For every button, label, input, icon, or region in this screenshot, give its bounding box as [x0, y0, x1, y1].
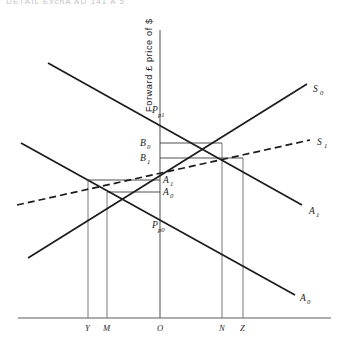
curve-label-S0-main: S: [313, 84, 318, 94]
price-label-B1-main: B: [140, 153, 146, 163]
price-label-A0-main: A: [162, 187, 169, 197]
price-label-Pp1: P p1: [151, 105, 165, 118]
curve-label-S0-sub: 0: [320, 89, 324, 96]
curve-label-A1-sub: 1: [316, 211, 319, 218]
price-label-A1-sub: 1: [170, 180, 173, 187]
x-tick-label-Y: Y: [85, 323, 91, 333]
price-label-B0: B 0: [140, 138, 151, 150]
price-label-A1: A 1: [162, 175, 173, 187]
forward-exchange-diagram: Forward £ price of $ P p1 B 0 B 1 A 1 A …: [0, 0, 339, 347]
price-label-Pp1-sub: p1: [157, 111, 165, 118]
curve-label-A0: A 0: [299, 293, 311, 305]
curve-label-S1-main: S: [317, 137, 322, 147]
x-tick-label-N: N: [218, 323, 226, 333]
x-tick-label-Z: Z: [240, 323, 245, 333]
curve-label-A1: A 1: [308, 206, 319, 218]
x-tick-label-M: M: [102, 323, 111, 333]
price-label-A0: A 0: [162, 187, 174, 199]
price-label-A0-sub: 0: [170, 192, 174, 199]
price-label-Pp0-sub: p0: [157, 226, 165, 233]
price-label-Pp0-main: P: [151, 220, 158, 230]
price-label-B1: B 1: [140, 153, 150, 165]
price-label-B1-sub: 1: [147, 158, 150, 165]
curve-label-A0-main: A: [299, 293, 306, 303]
curve-label-S1-sub: 1: [324, 142, 327, 149]
x-tick-label-O: O: [157, 323, 163, 333]
price-label-A1-main: A: [162, 175, 169, 185]
curve-label-A1-main: A: [308, 206, 315, 216]
curve-A0: [21, 143, 295, 295]
curve-label-A0-sub: 0: [307, 298, 311, 305]
page-header-text: DETAIL ExchA AD 141 A 5: [6, 0, 125, 6]
price-label-Pp1-main: P: [151, 105, 158, 115]
curve-label-S0: S 0: [313, 84, 324, 96]
curve-label-S1: S 1: [317, 137, 327, 149]
price-label-B0-sub: 0: [147, 143, 151, 150]
figure-container: DETAIL ExchA AD 141 A 5 Forward £ price …: [0, 0, 339, 347]
price-label-B0-main: B: [140, 138, 146, 148]
y-axis-title: Forward £ price of $: [144, 18, 154, 112]
curve-A1: [48, 63, 302, 205]
